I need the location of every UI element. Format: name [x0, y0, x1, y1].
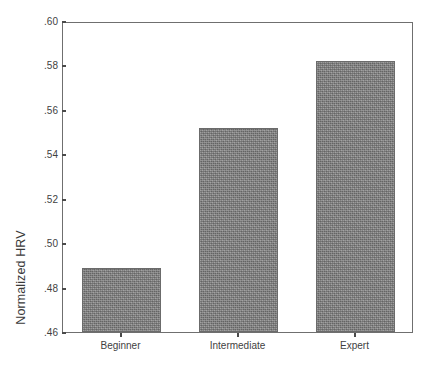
y-axis-tick-label: .48 [44, 284, 62, 294]
y-axis-tick-label: .58 [44, 61, 62, 71]
bar-chart: Normalized HRV .46.48.50.52.54.56.58.60 … [0, 0, 428, 365]
y-axis-tick-label: .54 [44, 150, 62, 160]
bar [82, 268, 161, 332]
y-axis-tick-mark [62, 65, 66, 67]
x-axis-category-label: Beginner [100, 340, 140, 351]
y-axis-tick-label: .56 [44, 106, 62, 116]
x-axis-category-label: Intermediate [210, 340, 266, 351]
y-axis-tick-label: .46 [44, 328, 62, 338]
y-axis-tick-mark [62, 110, 66, 112]
bars-layer [63, 23, 412, 332]
y-axis-tick-mark [62, 288, 66, 290]
plot-area [62, 22, 413, 333]
y-axis-tick-mark [62, 154, 66, 156]
y-axis-tick-mark [62, 199, 66, 201]
y-axis-title: Normalized HRV [10, 215, 32, 340]
y-axis-tick-label: .60 [44, 17, 62, 27]
x-axis-tick-mark [354, 333, 356, 337]
x-axis-tick-mark [120, 333, 122, 337]
y-axis-tick-mark [62, 332, 66, 334]
y-axis-tick-mark [62, 243, 66, 245]
x-axis-tick-mark [237, 333, 239, 337]
y-axis-tick-label: .52 [44, 195, 62, 205]
y-axis-tick-label: .50 [44, 239, 62, 249]
y-axis-tick-mark [62, 21, 66, 23]
x-axis-category-label: Expert [340, 340, 369, 351]
bar [316, 61, 395, 332]
bar [199, 128, 278, 332]
